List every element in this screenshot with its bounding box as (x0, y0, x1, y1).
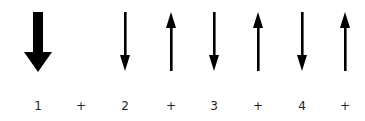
count-label-3: 3 (204, 99, 224, 113)
up-arrow-icon (340, 12, 350, 71)
down-arrow-icon (297, 12, 307, 71)
accent-down-arrow-icon (24, 12, 52, 72)
count-label-and: + (335, 99, 355, 113)
count-label-4: 4 (292, 99, 312, 113)
count-label-1: 1 (28, 99, 48, 113)
down-arrow-icon (120, 12, 130, 71)
count-label-and: + (71, 99, 91, 113)
count-label-and: + (161, 99, 181, 113)
down-arrow-icon (209, 12, 219, 71)
count-label-and: + (248, 99, 268, 113)
up-arrow-icon (166, 12, 176, 71)
count-label-2: 2 (115, 99, 135, 113)
up-arrow-icon (253, 12, 263, 71)
